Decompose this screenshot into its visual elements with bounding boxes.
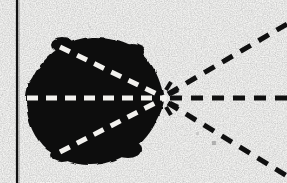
scan-artifact-a bbox=[196, 132, 199, 135]
scan-artifact-b bbox=[212, 141, 216, 145]
scan-artifact-c bbox=[89, 26, 91, 28]
blob-bump-upper-right bbox=[120, 44, 144, 60]
scanned-figure-drawing bbox=[0, 0, 287, 183]
blob-bump-lower-right bbox=[115, 142, 141, 158]
figure-canvas: Black blob with converging dashed axes a… bbox=[0, 0, 287, 183]
vertex-highlight bbox=[161, 95, 167, 101]
